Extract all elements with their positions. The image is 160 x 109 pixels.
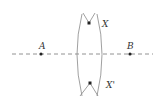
point-x-prime bbox=[89, 82, 92, 85]
construction-diagram: A B X X' bbox=[0, 0, 160, 109]
point-x bbox=[88, 22, 91, 25]
arc-left-extension-bottom bbox=[80, 83, 90, 96]
point-a bbox=[39, 52, 42, 55]
point-b bbox=[128, 52, 131, 55]
label-x-prime: X' bbox=[105, 80, 115, 90]
arc-left bbox=[77, 14, 82, 96]
arc-right-extension-bottom bbox=[90, 83, 98, 96]
label-b: B bbox=[126, 41, 134, 51]
label-x: X bbox=[101, 19, 109, 29]
label-a: A bbox=[38, 41, 46, 51]
